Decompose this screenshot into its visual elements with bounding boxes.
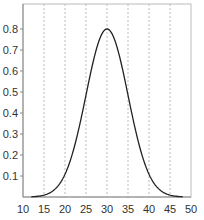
x-tick-label: 45 [164,203,176,215]
x-tick-label: 50 [185,203,197,215]
x-tick-label: 10 [17,203,29,215]
y-tick-label: 0.6 [3,65,18,77]
y-tick-label: 0.1 [3,170,18,182]
x-tick-label: 30 [101,203,113,215]
x-tick-label: 35 [122,203,134,215]
x-tick-label: 25 [80,203,92,215]
y-axis-ticks: 0.10.20.30.40.50.60.70.8 [3,23,23,182]
x-tick-label: 40 [143,203,155,215]
x-tick-label: 15 [38,203,50,215]
y-tick-label: 0.5 [3,86,18,98]
gaussian-line-chart: 0.10.20.30.40.50.60.70.8 101520253035404… [0,0,204,220]
x-axis-ticks: 101520253035404550 [17,203,197,215]
y-tick-label: 0.4 [3,107,18,119]
x-tick-label: 20 [59,203,71,215]
y-tick-label: 0.7 [3,44,18,56]
y-tick-label: 0.2 [3,149,18,161]
grid-lines [44,4,170,197]
y-tick-label: 0.8 [3,23,18,35]
y-tick-label: 0.3 [3,128,18,140]
